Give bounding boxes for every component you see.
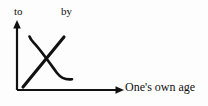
diagram-canvas: to by One's own age bbox=[0, 0, 208, 106]
label-to: to bbox=[14, 6, 23, 17]
label-by: by bbox=[61, 6, 72, 17]
x-axis-arrowhead-icon bbox=[116, 86, 125, 94]
y-axis-arrowhead-icon bbox=[13, 20, 21, 29]
x-axis-label: One's own age bbox=[125, 81, 195, 93]
ascending-line bbox=[23, 37, 64, 87]
